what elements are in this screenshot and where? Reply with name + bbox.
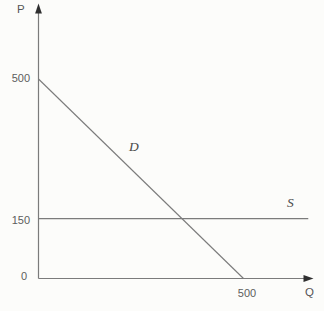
y-axis-arrowhead-icon bbox=[35, 4, 42, 14]
y-axis-label: P bbox=[17, 3, 25, 15]
x-axis-arrowhead-icon bbox=[304, 275, 314, 282]
demand-curve bbox=[39, 79, 244, 279]
demand-curve-label: D bbox=[129, 140, 139, 154]
x-tick-500: 500 bbox=[227, 287, 267, 299]
y-tick-500: 500 bbox=[2, 72, 30, 84]
x-axis-label: Q bbox=[305, 286, 314, 298]
supply-demand-plot bbox=[0, 0, 324, 311]
supply-curve-label: S bbox=[287, 196, 294, 210]
origin-tick-0: 0 bbox=[2, 270, 27, 282]
supply-demand-figure: P Q 500 150 0 500 D S bbox=[0, 0, 324, 311]
y-tick-150: 150 bbox=[2, 214, 30, 226]
